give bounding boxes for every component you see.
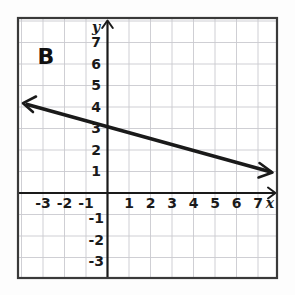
y-tick-label: 7: [91, 34, 101, 50]
plot-background: [18, 18, 277, 278]
y-tick-label: -2: [88, 232, 104, 248]
y-tick-label: 6: [91, 56, 101, 72]
x-axis-label: x: [265, 195, 275, 211]
x-tick-label: -1: [78, 195, 94, 211]
x-tick-label: 1: [124, 195, 134, 211]
x-tick-label: 5: [210, 195, 220, 211]
x-tick-label: 7: [253, 195, 263, 211]
graph-canvas: -3 -2 -1 1 2 3 4 5 6 7 7 6 5 4 3 2 1 -1 …: [0, 0, 295, 295]
y-axis-label: y: [91, 19, 101, 35]
y-tick-label: 1: [91, 163, 101, 179]
x-tick-label: 4: [189, 195, 199, 211]
x-tick-label: 6: [232, 195, 242, 211]
x-tick-label: 3: [167, 195, 177, 211]
y-tick-label: -1: [88, 210, 104, 226]
x-tick-label: 2: [146, 195, 156, 211]
y-tick-label: 5: [91, 77, 101, 93]
line-b-label: B: [38, 44, 55, 69]
y-tick-label: -3: [88, 253, 104, 269]
y-tick-label: 2: [91, 142, 101, 158]
y-tick-label: 4: [91, 99, 101, 115]
x-tick-label: -2: [57, 195, 73, 211]
coordinate-plane-figure: -3 -2 -1 1 2 3 4 5 6 7 7 6 5 4 3 2 1 -1 …: [0, 0, 295, 295]
y-tick-label: 3: [91, 120, 101, 136]
x-tick-label: -3: [35, 195, 51, 211]
